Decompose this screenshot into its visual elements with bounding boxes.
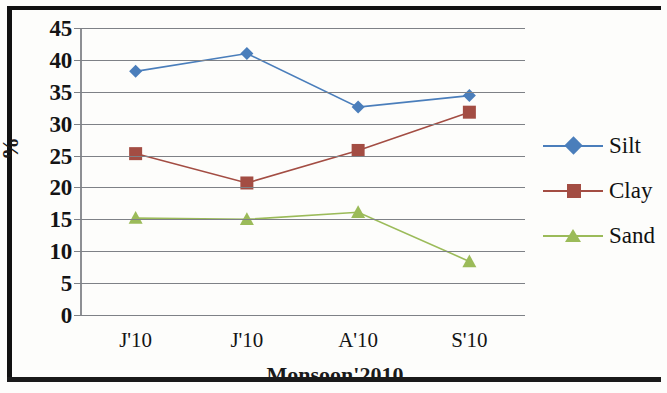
legend-item-clay[interactable]: Clay [541, 177, 667, 207]
page-border-top [7, 6, 661, 10]
y-tick-20 [74, 187, 81, 188]
datapoint-sand-3 [462, 254, 476, 267]
series-clay [129, 106, 476, 190]
chart-scan-page: % 454035302520151050 J'10J'10A'10S'10 Mo… [0, 0, 667, 393]
legend-label-clay: Clay [609, 177, 652, 205]
gridline-0 [80, 315, 525, 316]
y-tick-40 [74, 60, 81, 61]
y-tick-label-30: 30 [14, 113, 72, 136]
gridline-25 [80, 156, 525, 157]
gridline-40 [80, 60, 525, 61]
datapoint-silt-1 [240, 47, 253, 60]
series-line-clay [136, 112, 470, 183]
y-tick-label-35: 35 [14, 81, 72, 104]
y-tick-label-15: 15 [14, 208, 72, 231]
y-tick-10 [74, 251, 81, 252]
y-tick-label-10: 10 [14, 240, 72, 263]
y-tick-30 [74, 124, 81, 125]
x-tick-label-1: J'10 [192, 330, 302, 351]
x-tick-label-2: A'10 [303, 330, 413, 351]
datapoint-sand-2 [351, 205, 365, 218]
gridline-35 [80, 92, 525, 93]
y-tick-label-40: 40 [14, 49, 72, 72]
x-tick-label-0: J'10 [81, 330, 191, 351]
y-tick-label-25: 25 [14, 145, 72, 168]
legend-label-sand: Sand [609, 222, 655, 250]
legend-label-silt: Silt [609, 132, 641, 160]
x-tick-label-3: S'10 [414, 330, 524, 351]
series-line-silt [136, 54, 470, 108]
series-silt [129, 47, 476, 114]
series-layer [80, 28, 525, 315]
legend-marker-square-icon [567, 184, 581, 198]
datapoint-clay-0 [129, 147, 142, 160]
legend-item-silt[interactable]: Silt [541, 132, 667, 162]
legend-marker-triangle-icon [565, 229, 581, 242]
y-tick-label-0: 0 [14, 304, 72, 327]
legend-item-sand[interactable]: Sand [541, 222, 667, 252]
y-axis-tick-labels: 454035302520151050 [8, 28, 72, 316]
datapoint-clay-2 [352, 144, 365, 157]
y-tick-15 [74, 219, 81, 220]
y-tick-35 [74, 92, 81, 93]
gridline-15 [80, 219, 525, 220]
gridline-30 [80, 124, 525, 125]
gridline-20 [80, 187, 525, 188]
gridline-45 [80, 28, 525, 29]
y-tick-label-20: 20 [14, 176, 72, 199]
x-axis-title: Monsoon'2010 [175, 362, 495, 388]
y-tick-label-5: 5 [14, 272, 72, 295]
chart-legend: SiltClaySand [541, 132, 667, 272]
gridline-10 [80, 251, 525, 252]
y-tick-label-45: 45 [14, 17, 72, 40]
gridline-5 [80, 283, 525, 284]
series-sand [129, 205, 477, 267]
y-tick-0 [74, 315, 81, 316]
y-tick-45 [74, 28, 81, 29]
y-tick-25 [74, 156, 81, 157]
datapoint-clay-3 [463, 106, 476, 119]
datapoint-silt-0 [129, 65, 142, 78]
datapoint-silt-2 [352, 101, 365, 114]
y-tick-5 [74, 283, 81, 284]
plot-area [80, 28, 525, 315]
legend-marker-diamond-icon [564, 136, 582, 154]
